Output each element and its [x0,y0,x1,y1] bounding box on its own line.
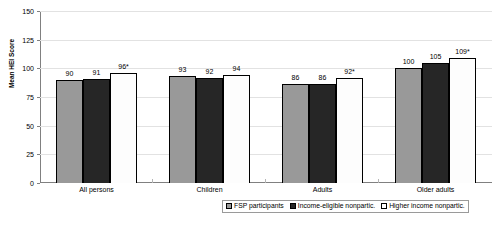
bar[interactable]: 96* [110,73,137,183]
bar-value-label: 94 [233,65,241,72]
legend-item-2[interactable]: Higher income nonpartic. [381,202,465,210]
bar[interactable]: 86 [309,84,336,183]
y-axis-tick-label: 100 [22,65,34,72]
bar[interactable]: 90 [56,80,83,183]
chart-legend: FSP participantsIncome-eligible nonparti… [222,200,469,213]
bar-groups: 909196*939294868692*100105109* [40,11,492,183]
y-axis-tick-label: 0 [30,180,34,187]
bar[interactable]: 100 [395,68,422,183]
bar[interactable]: 86 [282,84,309,183]
y-axis-tick-mark [37,183,40,184]
bar[interactable]: 105 [422,63,449,183]
bar-value-label: 90 [66,70,74,77]
y-axis-tick-label: 125 [22,36,34,43]
legend-swatch-icon [290,203,296,209]
bar-group: 100105109* [379,11,492,183]
bar[interactable]: 109* [449,58,476,183]
bar-cluster: 100105109* [395,11,476,183]
bar-value-label: 92* [344,68,355,75]
bar-cluster: 909196* [56,11,137,183]
bar[interactable]: 94 [223,75,250,183]
bar-value-label: 93 [179,66,187,73]
bar-cluster: 868692* [282,11,363,183]
legend-label: Income-eligible nonpartic. [298,202,375,210]
legend-swatch-icon [226,203,232,209]
bar[interactable]: 92* [336,78,363,183]
plot-area: 1501251007550250 909196*939294868692*100… [40,11,492,183]
legend-swatch-icon [381,203,387,209]
bar[interactable]: 91 [83,79,110,183]
bar-value-label: 86 [319,74,327,81]
x-axis-category-label-1: Children [153,186,266,193]
bar-cluster: 939294 [169,11,250,183]
y-axis-tick-label: 150 [22,8,34,15]
bar-value-label: 91 [93,69,101,76]
y-axis-title: Mean HEI Score [8,19,15,109]
bar-value-label: 109* [455,48,469,55]
x-axis-category-label-0: All persons [40,186,153,193]
bar-value-label: 92 [206,68,214,75]
y-axis-tick-label: 50 [26,122,34,129]
bar-value-label: 105 [430,53,442,60]
x-axis-category-label-3: Older adults [379,186,492,193]
bar-group: 868692* [266,11,379,183]
bar-value-label: 96* [118,63,129,70]
x-axis-category-labels: All personsChildrenAdultsOlder adults [40,186,492,193]
y-axis-tick-label: 75 [26,94,34,101]
bar-group: 939294 [153,11,266,183]
legend-item-1[interactable]: Income-eligible nonpartic. [290,202,375,210]
bar-value-label: 100 [403,58,415,65]
bar[interactable]: 92 [196,78,223,183]
bar-group: 909196* [40,11,153,183]
legend-item-0[interactable]: FSP participants [226,202,284,210]
bar-chart: Mean HEI Score 1501251007550250 909196*9… [0,0,501,226]
x-axis-category-label-2: Adults [266,186,379,193]
legend-label: Higher income nonpartic. [389,202,465,210]
bar[interactable]: 93 [169,76,196,183]
legend-label: FSP participants [234,202,284,210]
y-axis-tick-label: 25 [26,151,34,158]
bar-value-label: 86 [292,74,300,81]
